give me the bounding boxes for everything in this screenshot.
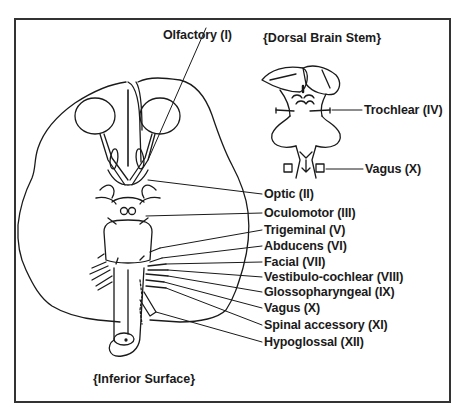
dorsal-leader-lines: [326, 110, 363, 169]
brain-outline: [18, 78, 249, 322]
dorsal-brain-stem-title: {Dorsal Brain Stem}: [263, 31, 381, 45]
label-olfactory: Olfactory (I): [163, 28, 232, 42]
label-oculomotor: Oculomotor (III): [264, 206, 355, 220]
leader-lines: [146, 28, 262, 342]
olfactory-structures: [75, 90, 180, 204]
label-facial: Facial (VII): [264, 255, 325, 269]
label-optic: Optic (II): [264, 187, 314, 201]
label-abducens: Abducens (VI): [264, 239, 347, 253]
label-vagus-dorsal: Vagus (X): [365, 162, 421, 176]
dorsal-brainstem: [262, 66, 340, 178]
cranial-nerves-illustration: [0, 0, 465, 415]
label-glossopharyngeal: Glossopharyngeal (IX): [264, 285, 395, 299]
inferior-surface-title: {Inferior Surface}: [93, 372, 195, 386]
label-trochlear: Trochlear (IV): [364, 103, 442, 117]
label-hypoglossal: Hypoglossal (XII): [264, 335, 364, 349]
label-vagus: Vagus (X): [264, 301, 320, 315]
label-trigeminal: Trigeminal (V): [264, 223, 345, 237]
label-spinal-accessory: Spinal accessory (XI): [264, 318, 388, 332]
label-vestibulocochlear: Vestibulo-cochlear (VIII): [264, 270, 403, 284]
brainstem: [104, 220, 156, 356]
